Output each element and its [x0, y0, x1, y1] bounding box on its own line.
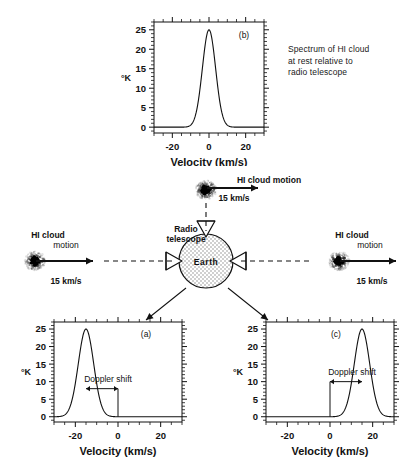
svg-text:10: 10: [35, 376, 46, 387]
svg-text:-20: -20: [280, 430, 294, 441]
svg-text:5: 5: [141, 102, 147, 113]
svg-text:Radio: Radio: [174, 224, 198, 234]
chart-c-svg: -200200510152025Velocity (km/s)°K(c)Dopp…: [218, 316, 408, 466]
svg-text:HI cloud: HI cloud: [31, 230, 65, 240]
svg-text:0: 0: [115, 430, 120, 441]
svg-text:Velocity (km/s): Velocity (km/s): [170, 156, 247, 166]
svg-text:15 km/s: 15 km/s: [218, 193, 249, 203]
svg-text:telescope: telescope: [166, 234, 205, 244]
svg-text:5: 5: [253, 394, 259, 405]
svg-text:15: 15: [247, 359, 258, 370]
svg-text:25: 25: [247, 323, 258, 334]
svg-text:15 km/s: 15 km/s: [356, 276, 387, 286]
chart-panel-a: -200200510152025Velocity (km/s)°K(a)Dopp…: [6, 316, 196, 466]
svg-text:20: 20: [240, 141, 251, 152]
svg-text:-20: -20: [68, 430, 82, 441]
svg-text:(c): (c): [331, 329, 341, 339]
svg-text:20: 20: [367, 430, 378, 441]
svg-text:25: 25: [135, 24, 146, 35]
svg-text:motion: motion: [357, 240, 383, 250]
svg-text:Doppler shift: Doppler shift: [328, 367, 376, 377]
svg-text:15: 15: [35, 359, 46, 370]
svg-text:Doppler shift: Doppler shift: [84, 374, 132, 384]
chart-a-svg: -200200510152025Velocity (km/s)°K(a)Dopp…: [6, 316, 196, 466]
svg-text:20: 20: [35, 341, 46, 352]
svg-text:°K: °K: [233, 367, 244, 377]
caption-note: Spectrum of HI cloud at rest relative to…: [288, 44, 412, 79]
svg-text:0: 0: [41, 411, 46, 422]
svg-text:°K: °K: [21, 367, 32, 377]
svg-text:HI cloud motion: HI cloud motion: [237, 175, 301, 185]
svg-text:0: 0: [253, 411, 258, 422]
svg-text:(a): (a): [141, 329, 152, 339]
svg-text:-20: -20: [165, 141, 179, 152]
svg-text:°K: °K: [121, 73, 132, 83]
chart-panel-c: -200200510152025Velocity (km/s)°K(c)Dopp…: [218, 316, 408, 466]
svg-text:0: 0: [327, 430, 332, 441]
svg-text:Velocity (km/s): Velocity (km/s): [79, 445, 156, 457]
svg-text:20: 20: [155, 430, 166, 441]
chart-panel-b: -200200510152025Velocity (km/s)°K(b): [112, 14, 272, 166]
svg-text:10: 10: [247, 376, 258, 387]
svg-text:Velocity (km/s): Velocity (km/s): [291, 445, 368, 457]
figure-canvas: -200200510152025Velocity (km/s)°K(b) Spe…: [0, 0, 413, 468]
svg-text:(b): (b): [239, 30, 250, 40]
svg-text:15 km/s: 15 km/s: [50, 276, 81, 286]
svg-text:0: 0: [206, 141, 211, 152]
svg-text:Earth: Earth: [194, 257, 219, 267]
svg-text:10: 10: [135, 83, 146, 94]
svg-text:15: 15: [135, 63, 146, 74]
svg-text:0: 0: [141, 122, 146, 133]
svg-text:HI cloud: HI cloud: [335, 230, 369, 240]
chart-b-svg: -200200510152025Velocity (km/s)°K(b): [112, 14, 272, 166]
svg-text:20: 20: [135, 44, 146, 55]
svg-text:25: 25: [35, 323, 46, 334]
svg-text:20: 20: [247, 341, 258, 352]
svg-text:5: 5: [41, 394, 47, 405]
svg-text:motion: motion: [53, 240, 79, 250]
